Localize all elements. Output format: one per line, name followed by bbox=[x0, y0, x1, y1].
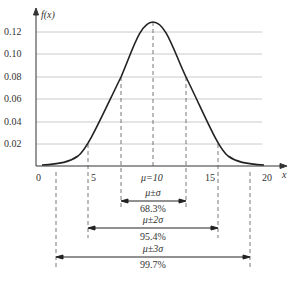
normal-distribution-chart: f(x) x 0.12 0.10 0.08 0.06 0.04 0.02 0 5… bbox=[0, 0, 298, 283]
sigma1-percent: 68.3% bbox=[140, 203, 166, 214]
svg-text:μ=10: μ=10 bbox=[140, 172, 163, 183]
y-axis-arrow-icon bbox=[34, 8, 39, 15]
sigma3-percent: 99.7% bbox=[140, 259, 166, 270]
x-axis-arrow-icon bbox=[280, 164, 287, 169]
svg-text:5: 5 bbox=[91, 172, 96, 183]
x-ticks: 0 5 μ=10 15 20 bbox=[36, 172, 272, 183]
sigma3-label: μ±3σ bbox=[142, 243, 165, 254]
svg-text:0.08: 0.08 bbox=[4, 71, 22, 82]
svg-text:0.04: 0.04 bbox=[4, 116, 22, 127]
svg-text:0.02: 0.02 bbox=[4, 138, 22, 149]
x-axis-label: x bbox=[281, 169, 287, 180]
svg-text:0.10: 0.10 bbox=[4, 48, 22, 59]
svg-text:0.06: 0.06 bbox=[4, 93, 22, 104]
svg-text:15: 15 bbox=[205, 172, 215, 183]
svg-text:20: 20 bbox=[262, 172, 272, 183]
svg-text:0.12: 0.12 bbox=[4, 26, 22, 37]
y-ticks: 0.12 0.10 0.08 0.06 0.04 0.02 bbox=[4, 26, 22, 149]
svg-text:0: 0 bbox=[36, 172, 41, 183]
sigma2-label: μ±2σ bbox=[142, 214, 165, 225]
sigma1-label: μ±σ bbox=[144, 187, 162, 198]
y-axis-label: f(x) bbox=[41, 9, 56, 21]
gridlines bbox=[36, 32, 262, 144]
sigma2-percent: 95.4% bbox=[140, 231, 166, 242]
